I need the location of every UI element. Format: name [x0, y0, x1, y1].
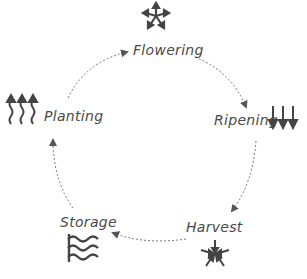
- node-label-harvest: Harvest: [186, 219, 243, 235]
- arrow-planting-to-flowering: [68, 52, 127, 98]
- wavy-up-arrows-icon: [7, 95, 37, 124]
- node-label-ripening: Ripening: [214, 112, 278, 128]
- cycle-diagram: Flowering Ripening Harvest Storage Plant…: [0, 0, 307, 279]
- arrows-converging-center-icon: [201, 240, 229, 266]
- arrow-flowering-to-ripening: [195, 57, 246, 107]
- arrow-storage-to-planting: [53, 140, 73, 208]
- arrow-harvest-to-storage: [113, 233, 186, 241]
- node-label-flowering: Flowering: [133, 42, 204, 58]
- star-arrows-outward-icon: [143, 3, 169, 28]
- node-label-storage: Storage: [60, 214, 117, 230]
- arrow-ripening-to-harvest: [232, 141, 256, 211]
- node-label-planting: Planting: [44, 108, 103, 124]
- wavy-lines-icon: [68, 234, 98, 262]
